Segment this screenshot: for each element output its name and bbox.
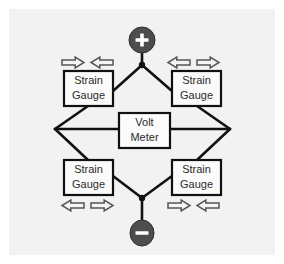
- wire-right-to-br: [197, 129, 230, 160]
- component-boxes-layer: StrainGaugeStrainGaugeStrainGaugeStrainG…: [64, 71, 221, 195]
- volt-meter[interactable]: VoltMeter: [119, 113, 170, 148]
- volt-meter-label-line2: Meter: [130, 131, 158, 143]
- strain-gauge-top-right-label-line2: Gauge: [180, 89, 213, 101]
- volt-meter-label-line1: Volt: [135, 116, 153, 128]
- wire-left-to-bl: [55, 129, 88, 160]
- strain-gauge-bottom-right-label-line2: Gauge: [180, 178, 213, 190]
- strain-gauge-bottom-left-label-line1: Strain: [74, 163, 103, 175]
- strain-gauge-top-right-label-line1: Strain: [182, 74, 211, 86]
- wire-br-to-bottom-node: [142, 176, 172, 198]
- top-node: [139, 62, 145, 68]
- arrow-bottom-left-outer-left: [62, 200, 84, 211]
- wire-top-node-to-tl: [113, 65, 142, 91]
- plus-circle-icon-vertical-bar: [140, 34, 144, 47]
- strain-gauge-top-right[interactable]: StrainGauge: [172, 71, 221, 106]
- arrow-top-right-inner-right: [197, 57, 219, 68]
- wire-bl-to-bottom-node: [113, 176, 142, 198]
- strain-gauge-top-left-label-line2: Gauge: [72, 89, 105, 101]
- wire-top-node-to-tr: [142, 65, 172, 91]
- minus-circle-icon-horizontal-bar: [136, 231, 149, 235]
- arrow-top-left-inner-right: [62, 57, 84, 68]
- arrow-bottom-right-inner-right: [168, 200, 190, 211]
- bottom-node: [139, 195, 145, 201]
- strain-gauge-bottom-right-label-line1: Strain: [182, 163, 211, 175]
- wire-tr-to-right: [197, 106, 230, 129]
- strain-gauge-top-left-label-line1: Strain: [74, 74, 103, 86]
- strain-gauge-bottom-right[interactable]: StrainGauge: [172, 160, 221, 195]
- arrow-top-right-inner-left: [168, 57, 190, 68]
- strain-gauge-bottom-left[interactable]: StrainGauge: [64, 160, 113, 195]
- strain-gauge-figure: StrainGaugeStrainGaugeStrainGaugeStrainG…: [0, 0, 284, 264]
- arrow-bottom-left-outer-right: [91, 200, 113, 211]
- wheatstone-bridge-diagram: StrainGaugeStrainGaugeStrainGaugeStrainG…: [9, 9, 275, 255]
- arrow-bottom-right-inner-left: [197, 200, 219, 211]
- arrow-top-left-inner-left: [91, 57, 113, 68]
- plus-circle-icon[interactable]: [129, 27, 155, 53]
- strain-gauge-bottom-left-label-line2: Gauge: [72, 178, 105, 190]
- wire-tl-to-left: [55, 106, 88, 129]
- diagram-panel: StrainGaugeStrainGaugeStrainGaugeStrainG…: [9, 9, 275, 255]
- strain-gauge-top-left[interactable]: StrainGauge: [64, 71, 113, 106]
- minus-circle-icon[interactable]: [130, 220, 154, 246]
